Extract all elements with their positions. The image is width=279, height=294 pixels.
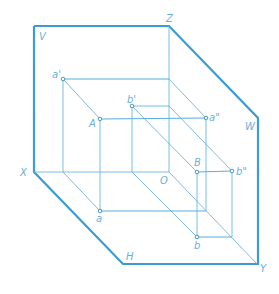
A-to-a-dprime: [100, 118, 206, 119]
label-a-dprime: a": [209, 112, 220, 123]
frame-outline: [34, 26, 258, 264]
point-B: [195, 170, 199, 174]
label-b-dprime: b": [236, 166, 247, 177]
point-b-dprime: [230, 169, 234, 173]
label-a: a: [96, 213, 102, 224]
plane-label-V: V: [39, 31, 47, 42]
axis-label-X: X: [19, 167, 28, 178]
a-prime-to-A: [63, 79, 100, 119]
point-A: [98, 117, 102, 121]
label-a-prime: a': [52, 69, 61, 80]
label-b-prime: b': [127, 94, 136, 105]
point-a-prime: [61, 77, 65, 81]
label-b: b: [194, 240, 200, 251]
axis-label-Z: Z: [165, 13, 174, 24]
label-B: B: [194, 157, 201, 168]
label-A: A: [88, 118, 96, 129]
point-a-dprime: [204, 116, 208, 120]
B-to-b-dprime: [197, 171, 232, 172]
plane-label-H: H: [126, 251, 134, 262]
y-axis: [169, 172, 257, 264]
b-prime-to-B: [132, 106, 197, 172]
projection-diagram: V W H Z X Y O a' A a" a b' B b" b: [0, 0, 279, 294]
point-b: [195, 235, 199, 239]
axis-label-O: O: [160, 175, 168, 186]
a-x-to-a: [63, 172, 100, 211]
plane-label-W: W: [245, 121, 256, 132]
axis-label-Y: Y: [260, 263, 267, 274]
